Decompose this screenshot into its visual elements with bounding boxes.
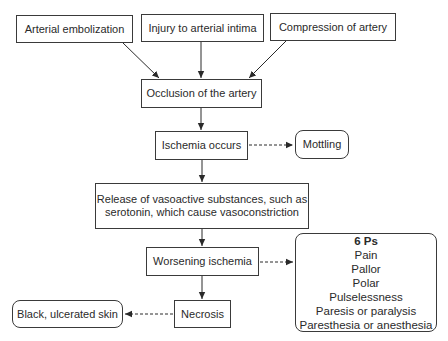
node-worsening-ischemia: Worsening ischemia — [146, 247, 259, 276]
node-arterial-embolization: Arterial embolization — [16, 15, 133, 43]
six-ps-item: Paresthesia or anesthesia — [300, 318, 433, 332]
six-ps-item: Pain — [354, 248, 377, 262]
node-label: Injury to arterial intima — [148, 22, 256, 35]
node-label: Mottling — [303, 138, 342, 151]
six-ps-item: Pallor — [351, 262, 380, 276]
node-label: Ischemia occurs — [162, 139, 241, 152]
six-ps-title: 6 Ps — [354, 234, 378, 248]
node-label: Worsening ischemia — [153, 255, 252, 268]
six-ps-item: Pulselessness — [329, 290, 403, 304]
node-label: Compression of artery — [279, 21, 387, 34]
node-label: Arterial embolization — [25, 23, 125, 36]
node-label: Necrosis — [181, 308, 224, 321]
node-label-line1: Release of vasoactive substances, such a… — [97, 193, 307, 206]
node-injury-arterial-intima: Injury to arterial intima — [141, 14, 264, 42]
node-occlusion: Occlusion of the artery — [141, 79, 262, 108]
node-mottling: Mottling — [295, 130, 349, 159]
node-six-ps: 6 Ps Pain Pallor Polar Pulselessness Par… — [295, 233, 437, 332]
node-label: Occlusion of the artery — [146, 87, 256, 100]
arrow-embolization-to-occlusion — [123, 43, 159, 78]
node-necrosis: Necrosis — [174, 300, 231, 328]
six-ps-item: Polar — [353, 276, 380, 290]
node-compression-of-artery: Compression of artery — [270, 13, 396, 41]
six-ps-item: Paresis or paralysis — [316, 304, 416, 318]
node-label-line2: serotonin, which cause vasoconstriction — [105, 206, 299, 219]
node-black-ulcerated-skin: Black, ulcerated skin — [12, 300, 123, 328]
node-ischemia-occurs: Ischemia occurs — [155, 131, 248, 160]
arrow-compression-to-occlusion — [249, 41, 286, 78]
node-label: Black, ulcerated skin — [17, 308, 118, 321]
node-release-vasoactive: Release of vasoactive substances, such a… — [95, 183, 309, 229]
